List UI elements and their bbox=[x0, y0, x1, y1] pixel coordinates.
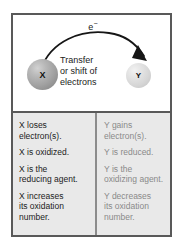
redox-figure: e− X Transfer or shift of electrons Y X … bbox=[11, 13, 172, 237]
statement-y-4-line-1: Y decreases bbox=[104, 191, 170, 202]
statement-y-4-line-3: number. bbox=[104, 212, 170, 223]
statement-x-1-line-2: electron(s). bbox=[19, 131, 95, 142]
statement-x-3-line-1: X is the bbox=[19, 164, 95, 175]
transfer-caption: Transfer or shift of electrons bbox=[60, 55, 126, 88]
statement-x-1: X loses electron(s). bbox=[19, 120, 95, 141]
statement-x-3-line-2: reducing agent. bbox=[19, 174, 95, 185]
statement-y-1-line-1: Y gains bbox=[104, 120, 170, 131]
statement-x-4-line-3: number. bbox=[19, 212, 95, 223]
statement-y-3: Y is the oxidizing agent. bbox=[104, 164, 170, 185]
statement-x-1-line-1: X loses bbox=[19, 120, 95, 131]
statement-column-x: X loses electron(s). X is oxidized. X is… bbox=[13, 113, 95, 235]
statement-y-4-line-2: its oxidation bbox=[104, 201, 170, 212]
statement-x-2-line-1: X is oxidized. bbox=[19, 147, 95, 158]
statement-x-4-line-2: its oxidation bbox=[19, 201, 95, 212]
statement-x-4: X increases its oxidation number. bbox=[19, 191, 95, 223]
sphere-x: X bbox=[27, 59, 58, 90]
statement-table: X loses electron(s). X is oxidized. X is… bbox=[13, 113, 170, 235]
statement-y-4: Y decreases its oxidation number. bbox=[104, 191, 170, 223]
sphere-x-label: X bbox=[39, 70, 45, 80]
statement-y-2: Y is reduced. bbox=[104, 147, 170, 158]
statement-column-y: Y gains electron(s). Y is reduced. Y is … bbox=[95, 113, 170, 235]
statement-x-3: X is the reducing agent. bbox=[19, 164, 95, 185]
transfer-caption-line-3: electrons bbox=[60, 77, 126, 88]
statement-y-1: Y gains electron(s). bbox=[104, 120, 170, 141]
statement-x-4-line-1: X increases bbox=[19, 191, 95, 202]
statement-y-2-line-1: Y is reduced. bbox=[104, 147, 170, 158]
statement-x-2: X is oxidized. bbox=[19, 147, 95, 158]
sphere-y: Y bbox=[126, 63, 151, 88]
statement-y-1-line-2: electron(s). bbox=[104, 131, 170, 142]
statement-y-3-line-1: Y is the bbox=[104, 164, 170, 175]
transfer-caption-line-1: Transfer bbox=[60, 55, 126, 66]
statement-y-3-line-2: oxidizing agent. bbox=[104, 174, 170, 185]
electron-transfer-diagram-panel: e− X Transfer or shift of electrons Y bbox=[13, 15, 170, 113]
sphere-y-label: Y bbox=[136, 71, 141, 80]
transfer-caption-line-2: or shift of bbox=[60, 66, 126, 77]
